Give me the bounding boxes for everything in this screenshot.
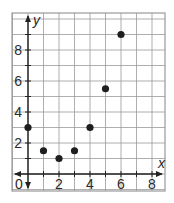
plot-frame <box>12 13 165 191</box>
data-point <box>24 124 31 131</box>
data-point <box>102 85 109 92</box>
data-point <box>86 124 93 131</box>
data-point <box>71 147 78 154</box>
svg-text:8: 8 <box>148 176 156 192</box>
svg-text:2: 2 <box>55 176 63 192</box>
data-point <box>40 147 47 154</box>
data-point <box>117 31 124 38</box>
svg-text:4: 4 <box>14 104 22 120</box>
x-axis-label: x <box>157 155 166 171</box>
data-point <box>55 155 62 162</box>
svg-text:6: 6 <box>117 176 125 192</box>
tick-labels: 24682468 <box>14 42 156 192</box>
svg-text:8: 8 <box>14 42 22 58</box>
origin-label: 0 <box>15 176 23 192</box>
svg-text:2: 2 <box>14 135 22 151</box>
axes <box>14 15 163 189</box>
svg-text:6: 6 <box>14 73 22 89</box>
svg-text:4: 4 <box>86 176 94 192</box>
grid-lines <box>12 13 165 191</box>
y-axis-label: y <box>32 12 41 28</box>
scatter-chart: 24682468 x y 0 <box>0 0 174 203</box>
